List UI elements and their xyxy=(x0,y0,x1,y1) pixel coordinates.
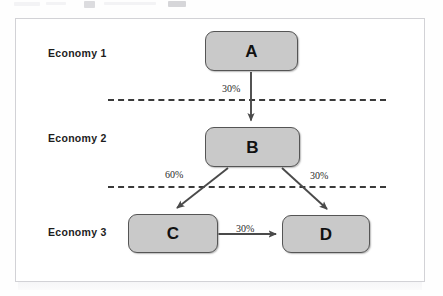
tier-divider-1-2 xyxy=(108,99,386,101)
node-d[interactable]: D xyxy=(282,215,370,253)
scan-artifact xyxy=(84,1,95,8)
node-c[interactable]: C xyxy=(128,214,218,253)
scan-artifact xyxy=(104,2,156,5)
edge-label-b-to-c: 60% xyxy=(165,170,183,180)
scan-artifact xyxy=(168,1,186,7)
node-a-label: A xyxy=(245,43,257,60)
node-c-label: C xyxy=(167,225,179,242)
node-a[interactable]: A xyxy=(205,31,298,71)
edge-label-a-to-b: 30% xyxy=(222,84,240,94)
tier-label-economy-2: Economy 2 xyxy=(48,133,107,144)
scanned-page: Economy 1 Economy 2 Economy 3 A xyxy=(0,0,443,296)
tier-label-economy-3: Economy 3 xyxy=(48,227,107,238)
scan-artifact xyxy=(14,2,40,6)
edge-label-c-to-d: 30% xyxy=(236,224,254,234)
node-b[interactable]: B xyxy=(205,127,300,167)
scan-artifact xyxy=(46,2,66,5)
node-b-label: B xyxy=(246,139,258,156)
edge-label-b-to-d: 30% xyxy=(310,171,328,181)
scan-artifact xyxy=(18,281,422,290)
node-d-label: D xyxy=(320,226,332,243)
tier-label-economy-1: Economy 1 xyxy=(48,48,107,59)
tier-divider-2-3 xyxy=(108,186,386,188)
